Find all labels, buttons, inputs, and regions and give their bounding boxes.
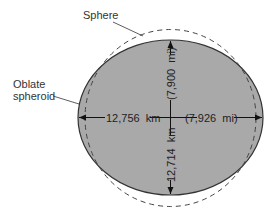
sphere-leader-line — [113, 22, 143, 36]
polar-mi-label: (7,900 mi) — [165, 47, 177, 100]
equatorial-mi-label: (7,926 mi) — [185, 112, 238, 124]
oblate-label-line2: spheroid — [13, 90, 55, 102]
oblate-label-line1: Oblate — [13, 78, 45, 90]
equatorial-km-label: 12,756 km — [106, 112, 160, 124]
sphere-label: Sphere — [83, 9, 118, 21]
polar-km-label: 12,714 km — [165, 128, 177, 182]
earth-shape-diagram: Sphere Oblate spheroid 12,756 km (7,926 … — [0, 0, 275, 220]
oblate-leader-line — [53, 96, 79, 104]
